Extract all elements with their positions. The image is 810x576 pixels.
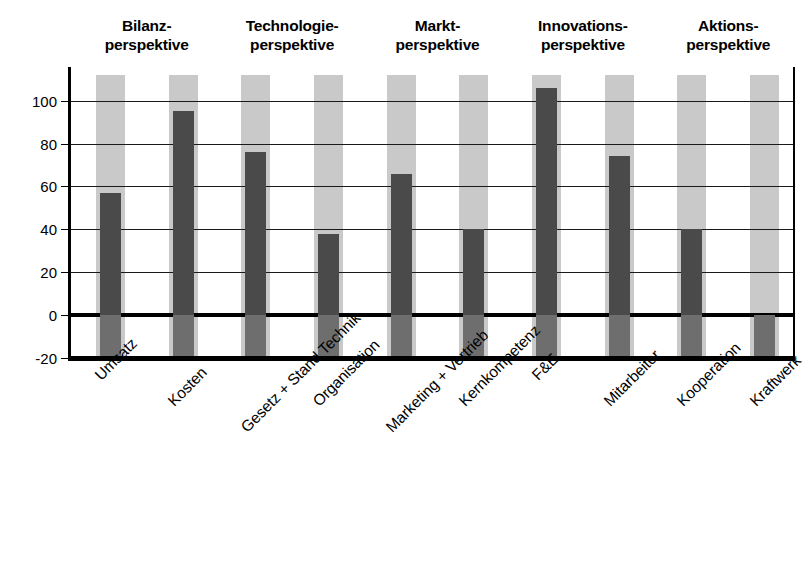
bar-baseline-segment [245,315,266,358]
y-tick-label: 60 [40,179,57,194]
right-axis-line [793,67,795,360]
group-header: Markt-perspektive [358,16,518,54]
group-header-line2: perspektive [212,35,372,54]
gridline [68,101,795,102]
y-tick-label: 80 [40,136,57,151]
category-label: Kosten [165,364,210,409]
group-header-line1: Innovations- [503,16,663,35]
bar-baseline-segment [754,315,775,358]
bar [318,234,339,315]
group-header-line1: Markt- [358,16,518,35]
bar [245,152,266,315]
group-header-line2: perspektive [67,35,227,54]
bar [100,193,121,315]
group-header-line1: Bilanz- [67,16,227,35]
plot-inner [68,75,795,358]
group-header-line2: perspektive [358,35,518,54]
bar-baseline-segment [391,315,412,358]
bar [536,88,557,315]
y-tick-label: 100 [32,93,57,108]
group-header: Technologie-perspektive [212,16,372,54]
y-tick-mark [61,186,68,187]
bar-baseline-segment [536,315,557,358]
group-header-row: Bilanz-perspektiveTechnologie-perspektiv… [0,0,810,70]
group-header: Aktions-perspektive [648,16,808,54]
group-header-line1: Aktions- [648,16,808,35]
y-tick-mark [61,101,68,102]
bar [681,229,702,315]
bar-baseline-segment [318,315,339,358]
bar [391,174,412,316]
bar-baseline-segment [609,315,630,358]
bar-baseline-segment [463,315,484,358]
group-header-line2: perspektive [503,35,663,54]
group-header-line1: Technologie- [212,16,372,35]
plot-area: -20020406080100 [68,75,795,358]
bar [463,229,484,315]
bar [609,156,630,315]
y-tick-mark [61,272,68,273]
y-tick-mark [61,229,68,230]
group-header-line2: perspektive [648,35,808,54]
group-header: Innovations-perspektive [503,16,663,54]
y-tick-label: 0 [49,308,57,323]
y-tick-label: -20 [35,351,57,366]
y-tick-label: 20 [40,265,57,280]
bar-baseline-segment [681,315,702,358]
y-tick-mark [61,315,68,316]
bar-baseline-segment [100,315,121,358]
bar-baseline-segment [173,315,194,358]
y-axis-line [68,67,71,360]
y-tick-label: 40 [40,222,57,237]
y-tick-mark [61,144,68,145]
group-header: Bilanz-perspektive [67,16,227,54]
chart-figure: Bilanz-perspektiveTechnologie-perspektiv… [0,0,810,576]
x-axis-line [68,356,795,361]
bar [173,111,194,315]
y-tick-mark [61,358,68,359]
